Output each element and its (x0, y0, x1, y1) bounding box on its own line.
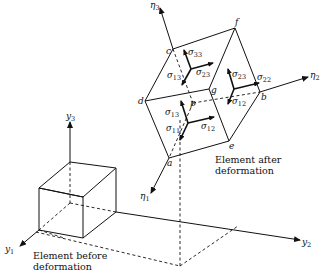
y2-axis (116, 212, 300, 240)
sigma23-arrow (191, 63, 213, 69)
sigma12-a-label: σ12 (201, 121, 215, 133)
caption-before-line1: Element before (33, 250, 108, 261)
deformed-cube (145, 28, 260, 158)
eta1-label: η1 (140, 191, 150, 203)
vertex-p: p (190, 98, 196, 108)
caption-before-line2: deformation (33, 261, 92, 272)
sigma11-label: σ11 (166, 123, 180, 135)
undeformed-cube (39, 162, 116, 238)
deformation-diagram: y3 y2 y1 Element before deformation c f … (0, 0, 320, 273)
vertex-d: d (138, 96, 144, 106)
vertex-f: f (234, 17, 240, 27)
vertex-c: c (166, 46, 171, 56)
y2-label: y2 (301, 237, 311, 249)
stress-arrows-face-b: σ23 σ22 σ12 (228, 69, 271, 108)
sigma13-a-label: σ13 (165, 107, 179, 119)
sigma11-arrow (180, 123, 188, 140)
vertex-b: b (261, 92, 267, 102)
stress-arrows-face-c: σ33 σ13 σ23 (167, 47, 213, 85)
caption-after-line1: Element after (215, 154, 282, 165)
deformed-element: c f g b d p e a η3 η2 η1 σ33 σ13 σ23 σ23… (138, 0, 320, 203)
y1-label: y1 (4, 244, 14, 256)
sigma22-label: σ22 (257, 72, 271, 84)
sigma22-arrow (234, 83, 259, 89)
sigma13-a-arrow (181, 101, 188, 123)
eta3-axis (160, 8, 173, 49)
sigma23-label: σ23 (196, 67, 210, 79)
vertex-a: a (167, 158, 172, 168)
undeformed-element: y3 y2 y1 Element before deformation (4, 111, 311, 272)
sigma23-b-label: σ23 (232, 69, 246, 81)
eta3-label: η3 (150, 0, 160, 12)
vertex-g: g (211, 85, 217, 95)
y3-label: y3 (65, 111, 75, 123)
eta2-label: η2 (310, 70, 320, 82)
sigma33-label: σ33 (188, 47, 202, 59)
caption-after-line2: deformation (215, 165, 274, 176)
vertex-e: e (229, 141, 234, 151)
sigma12-b-label: σ12 (232, 96, 246, 108)
sigma13-label: σ13 (167, 70, 181, 82)
